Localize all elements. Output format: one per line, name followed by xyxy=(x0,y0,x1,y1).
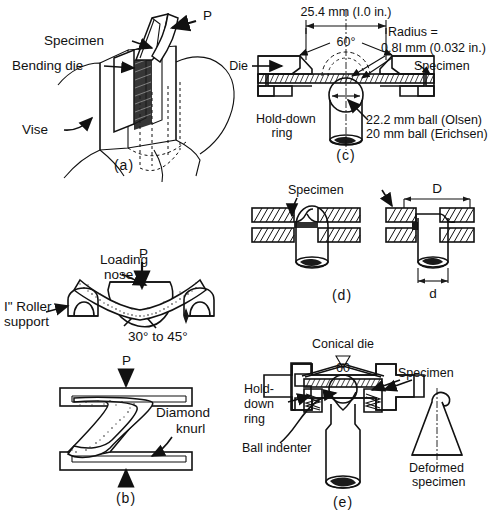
panel-d-left xyxy=(252,206,360,268)
panel-c-label-holddown-2: ring xyxy=(272,126,293,140)
panel-c-label-radius-1: Radius = xyxy=(388,25,438,39)
panel-b-label-angle: 30° to 45° xyxy=(128,329,188,344)
panel-c-label-radius-2: 0.8I mm (0.032 in.) xyxy=(381,41,486,55)
figure-canvas: P Specimen Bending die Vise (a) 25.4 mm … xyxy=(0,0,495,519)
panel-b-upper: Loading nose P xyxy=(4,246,214,344)
panel-c-label-die: Die xyxy=(229,59,248,73)
panel-d: Specimen xyxy=(252,181,474,303)
panel-a-label-specimen: Specimen xyxy=(44,33,104,48)
panel-b-label-knurl-1: Diamond xyxy=(156,405,210,420)
panel-b-label-loading-nose-2: nose xyxy=(104,267,133,282)
panel-e-label-holddown-3: ring xyxy=(244,412,265,426)
panel-c-label-ball-2: 20 mm ball (Erichsen) xyxy=(366,127,488,141)
panel-e-label-deformed-2: specimen xyxy=(412,475,466,489)
panel-d-label-D: D xyxy=(432,181,442,196)
deformed-specimen: Deformed specimen xyxy=(409,388,466,489)
panel-b-label-knurl-2: knurl xyxy=(176,421,205,436)
panel-e-caption: (e) xyxy=(333,494,353,510)
technical-figure: P Specimen Bending die Vise (a) 25.4 mm … xyxy=(0,0,495,519)
panel-b-label-roller-2: support xyxy=(4,314,49,329)
panel-a-label-vise: Vise xyxy=(22,122,48,137)
panel-e-label-angle: 60 xyxy=(336,361,350,375)
panel-e-label-ball-indenter: Ball indenter xyxy=(242,441,312,455)
panel-e-label-holddown-2: down xyxy=(244,397,274,411)
panel-c-label-specimen: Specimen xyxy=(414,59,470,73)
panel-c-label-ball-1: 22.2 mm ball (Olsen) xyxy=(366,113,482,127)
panel-a-caption: (a) xyxy=(114,157,134,173)
panel-a-label-load: P xyxy=(203,8,212,23)
panel-e-label-conical-die: Conical die xyxy=(312,337,374,351)
panel-b-label-load-top: P xyxy=(139,246,148,261)
panel-c: 25.4 mm (I.0 in.) 60° Radius = 0.8I mm (… xyxy=(229,5,487,163)
panel-c-label-holddown-1: Hold-down xyxy=(256,112,316,126)
panel-d-caption: (d) xyxy=(332,287,352,303)
panel-b-label-roller-1: I" Roller xyxy=(4,299,52,314)
panel-d-right: D d xyxy=(386,181,474,301)
panel-e-label-deformed-1: Deformed xyxy=(409,461,464,475)
panel-b-label-load-bottom: P xyxy=(122,353,131,368)
panel-a-label-bending-die: Bending die xyxy=(12,58,83,73)
panel-d-label-specimen: Specimen xyxy=(288,183,344,197)
panel-a: P Specimen Bending die Vise (a) xyxy=(12,8,234,182)
panel-b-caption: (b) xyxy=(116,490,136,506)
panel-e-label-holddown-1: Hold- xyxy=(244,382,274,396)
panel-e: Conical die 60 xyxy=(242,337,466,510)
panel-d-label-d: d xyxy=(429,286,437,301)
panel-e-label-specimen: Specimen xyxy=(398,366,454,380)
panel-c-caption: (c) xyxy=(336,147,355,163)
panel-b-lower: P Diamond knurl xyxy=(60,353,210,506)
